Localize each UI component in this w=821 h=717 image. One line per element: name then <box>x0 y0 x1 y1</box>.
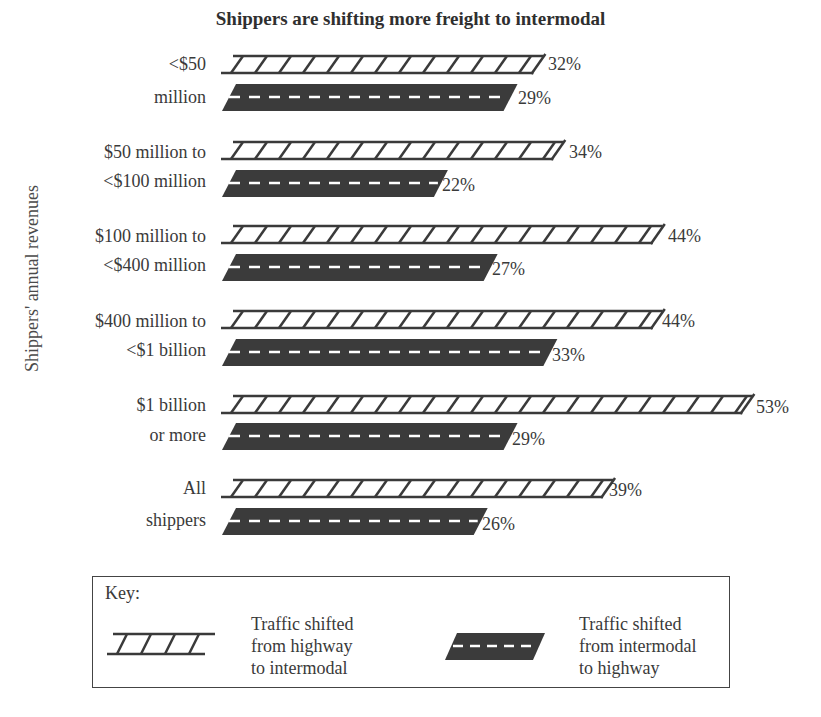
value-label-rail: 32% <box>548 54 581 75</box>
legend-label-rail: Traffic shifted from highway to intermod… <box>251 613 354 679</box>
value-label-rail: 44% <box>662 311 695 332</box>
rail-bar <box>221 224 665 244</box>
value-label-road: 29% <box>512 429 545 450</box>
value-label-road: 27% <box>492 259 525 280</box>
road-bar <box>222 339 557 366</box>
legend-title: Key: <box>105 583 140 604</box>
legend-text-line: to intermodal <box>251 657 354 679</box>
legend-label-road: Traffic shifted from intermodal to highw… <box>579 613 696 679</box>
value-label-rail: 44% <box>668 226 701 247</box>
legend-text-line: from highway <box>251 635 354 657</box>
road-icon <box>445 633 545 663</box>
value-label-road: 29% <box>518 88 551 109</box>
road-bar <box>222 84 518 111</box>
legend-text-line: from intermodal <box>579 635 696 657</box>
value-label-road: 33% <box>552 345 585 366</box>
road-bar <box>222 170 448 197</box>
legend-text-line: to highway <box>579 657 696 679</box>
rail-track-icon <box>105 629 220 659</box>
value-label-rail: 53% <box>756 397 789 418</box>
value-label-rail: 34% <box>569 142 602 163</box>
rail-bar <box>221 394 754 414</box>
road-bar <box>222 508 488 535</box>
rail-bar <box>221 140 565 160</box>
rail-bar <box>221 309 665 329</box>
rail-bar <box>221 478 615 498</box>
value-label-road: 26% <box>482 514 515 535</box>
value-label-road: 22% <box>442 175 475 196</box>
legend-text-line: Traffic shifted <box>579 613 696 635</box>
value-label-rail: 39% <box>609 480 642 501</box>
legend-text-line: Traffic shifted <box>251 613 354 635</box>
road-bar <box>222 254 498 281</box>
legend: Key: Traffic shifted from highway to int… <box>92 576 730 688</box>
road-bar <box>222 423 518 450</box>
rail-bar <box>221 54 545 74</box>
